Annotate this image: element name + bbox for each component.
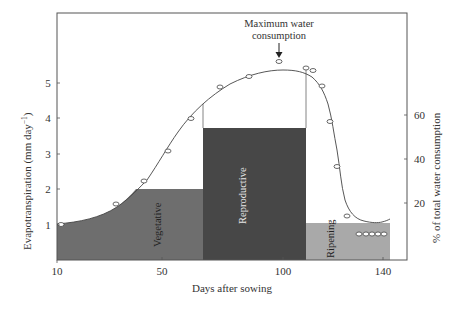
data-point — [188, 117, 194, 121]
y-axis-title-close: ) — [21, 112, 34, 116]
x-axis-title: Days after sowing — [192, 282, 273, 294]
stage-label-reproductive: Reproductive — [237, 167, 248, 224]
y2tick-60: 60 — [414, 109, 426, 121]
xtick-140: 140 — [375, 265, 392, 277]
data-point — [334, 165, 340, 169]
stage-bars — [57, 67, 390, 260]
data-point — [310, 69, 316, 73]
data-point — [217, 85, 223, 89]
xtick-50: 50 — [157, 265, 169, 277]
bar-ripening — [306, 223, 390, 260]
data-point-maximum — [276, 60, 282, 64]
data-point — [165, 149, 171, 153]
y2tick-40: 40 — [414, 153, 426, 165]
data-point — [375, 232, 381, 236]
data-point — [369, 232, 375, 236]
data-point — [363, 232, 369, 236]
ytick-4: 4 — [45, 112, 51, 124]
y-axis-title-main: Evapotranspiration (mm day — [21, 124, 34, 250]
data-point — [344, 214, 350, 218]
y-axis-title-sup: −1 — [20, 116, 29, 124]
ytick-1: 1 — [45, 219, 51, 231]
data-point — [356, 232, 362, 236]
data-point — [141, 179, 147, 183]
bar-reproductive — [203, 128, 306, 260]
stage-label-ripening: Ripening — [325, 219, 336, 258]
annotation-line2: consumption — [252, 30, 307, 41]
data-point — [303, 66, 309, 70]
ytick-3: 3 — [45, 148, 51, 160]
data-point — [113, 202, 119, 206]
xtick-100: 100 — [275, 265, 292, 277]
arrow-down-icon — [276, 52, 283, 58]
ytick-2: 2 — [45, 183, 51, 195]
stage-label-vegetative: Vegetative — [152, 202, 163, 247]
data-point — [327, 120, 333, 124]
data-point — [319, 84, 325, 88]
data-point — [246, 75, 252, 79]
y2-axis-title: % of total water consumption — [430, 112, 442, 243]
ytick-5: 5 — [45, 77, 51, 89]
data-point — [381, 232, 387, 236]
y2tick-20: 20 — [414, 197, 426, 209]
xtick-10: 10 — [52, 265, 64, 277]
data-point — [58, 223, 64, 227]
annotation-line1: Maximum water — [244, 18, 314, 29]
y-axis-title: Evapotranspiration (mm day−1) — [20, 112, 34, 250]
max-annotation: Maximum water consumption — [244, 18, 314, 58]
evapotranspiration-chart: Maximum water consumption Vegetative Rep… — [0, 0, 473, 309]
